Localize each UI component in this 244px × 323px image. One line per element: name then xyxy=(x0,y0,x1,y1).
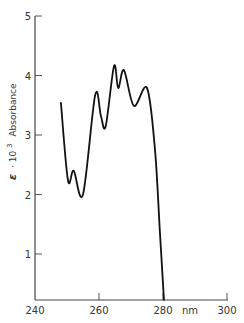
svg-text:ε · 10 3 Abs: ε · 10 3 Absorbance xyxy=(4,83,19,180)
absorbance-spectrum-chart: 12345 240260280300 ε · 10 3 Absorbance n… xyxy=(0,0,244,323)
y-tick-label: 5 xyxy=(25,11,31,22)
x-tick-label: 300 xyxy=(217,305,236,316)
epsilon-symbol: ε xyxy=(6,174,19,180)
x-ticks: 240260280300 xyxy=(25,293,236,316)
y-tick-label: 3 xyxy=(25,130,31,141)
y-axis-title: ε · 10 3 Absorbance xyxy=(4,83,19,180)
y-tick-label: 4 xyxy=(25,71,31,82)
x-tick-label: 240 xyxy=(25,305,44,316)
y-ticks: 12345 xyxy=(25,11,42,260)
y-tick-label: 1 xyxy=(25,249,31,260)
absorbance-curve xyxy=(61,65,164,300)
y-tick-label: 2 xyxy=(25,190,31,201)
x-axis-unit: nm xyxy=(182,305,198,316)
x-tick-label: 260 xyxy=(89,305,108,316)
x-tick-label: 280 xyxy=(153,305,172,316)
